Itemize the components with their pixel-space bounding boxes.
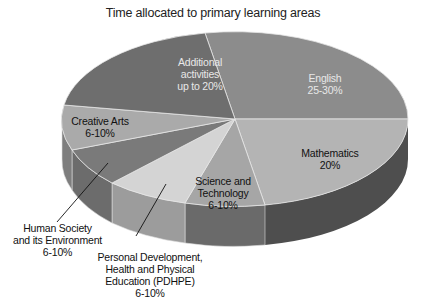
label-science: Science and Technology 6-10%	[183, 175, 263, 211]
label-mathematics: Mathematics 20%	[290, 147, 370, 171]
label-pdhpe: Personal Development, Health and Physica…	[90, 251, 210, 299]
label-creative-arts: Creative Arts 6-10%	[60, 115, 140, 139]
label-english: English 25-30%	[285, 72, 365, 96]
label-additional: Additional activities up to 20%	[150, 56, 250, 92]
